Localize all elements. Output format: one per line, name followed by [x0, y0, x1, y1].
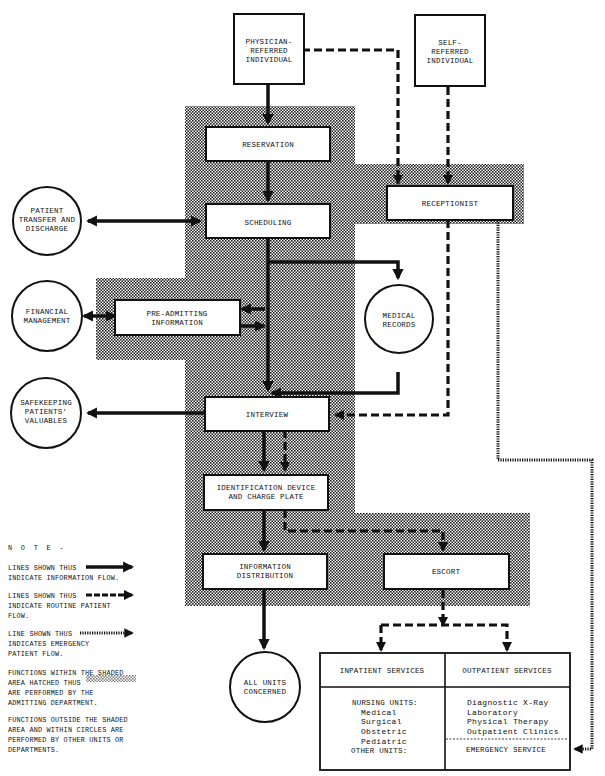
- node-physician-referred-individual: PHYSICIAN- REFERRED INDIVIDUAL: [234, 14, 304, 84]
- svg-text:Obstetric: Obstetric: [361, 727, 407, 736]
- svg-text:SELF-: SELF-: [438, 39, 462, 47]
- svg-text:PATIENT: PATIENT: [31, 207, 64, 215]
- svg-text:INDIVIDUAL: INDIVIDUAL: [245, 56, 292, 64]
- node-information-distribution: INFORMATION DISTRIBUTION: [203, 554, 327, 589]
- node-reservation: RESERVATION: [206, 127, 330, 161]
- svg-text:TRANSFER AND: TRANSFER AND: [19, 216, 76, 224]
- svg-text:DISTRIBUTION: DISTRIBUTION: [237, 572, 293, 580]
- note-information-flow: LINES SHOWN THUS INDICATE INFORMATION FL…: [8, 563, 119, 583]
- svg-text:REFERRED: REFERRED: [431, 48, 469, 56]
- svg-text:Surgical: Surgical: [361, 717, 402, 726]
- svg-text:PHYSICIAN-: PHYSICIAN-: [245, 38, 292, 46]
- svg-text:RESERVATION: RESERVATION: [242, 141, 294, 149]
- legend-samples: [80, 567, 136, 682]
- note-shaded-area: FUNCTIONS WITHIN THE SHADED AREA HATCHED…: [8, 668, 124, 708]
- circle-all-units-concerned: ALL UNITS CONCERNED: [230, 652, 300, 722]
- node-escort: ESCORT: [384, 554, 509, 589]
- svg-text:ESCORT: ESCORT: [432, 568, 461, 576]
- emergency-service-label: EMERGENCY SERVICE: [466, 746, 546, 754]
- svg-text:AND CHARGE PLATE: AND CHARGE PLATE: [228, 493, 304, 501]
- circle-medical-records: MEDICAL RECORDS: [365, 285, 433, 353]
- node-identification-device: IDENTIFICATION DEVICE AND CHARGE PLATE: [204, 475, 328, 510]
- circle-safekeeping-valuables: SAFEKEEPING PATIENTS' VALUABLES: [11, 378, 81, 448]
- services-table: INPATIENT SERVICES OUTPATIENT SERVICES N…: [320, 653, 570, 770]
- svg-text:MEDICAL: MEDICAL: [383, 312, 416, 320]
- circle-patient-transfer-discharge: PATIENT TRANSFER AND DISCHARGE: [13, 187, 81, 255]
- svg-text:Outpatient Clinics: Outpatient Clinics: [467, 727, 559, 736]
- note-emergency-patient-flow: LINE SHOWN THUS INDICATES EMERGENCY PATI…: [8, 629, 89, 659]
- svg-text:CONCERNED: CONCERNED: [244, 688, 287, 696]
- svg-text:VALUABLES: VALUABLES: [25, 417, 68, 425]
- svg-text:SCHEDULING: SCHEDULING: [244, 219, 291, 227]
- node-scheduling: SCHEDULING: [206, 204, 330, 238]
- svg-text:IDENTIFICATION DEVICE: IDENTIFICATION DEVICE: [217, 484, 316, 492]
- svg-text:Pediatric: Pediatric: [361, 737, 407, 746]
- svg-text:INTERVIEW: INTERVIEW: [246, 411, 289, 419]
- node-pre-admitting-information: PRE-ADMITTING INFORMATION: [115, 300, 240, 335]
- outpatient-header: OUTPATIENT SERVICES: [462, 667, 552, 675]
- node-interview: INTERVIEW: [205, 397, 329, 431]
- svg-text:PATIENTS': PATIENTS': [25, 408, 67, 416]
- svg-text:NURSING UNITS:: NURSING UNITS:: [352, 699, 418, 707]
- svg-text:DISCHARGE: DISCHARGE: [26, 225, 69, 233]
- note-routine-patient-flow: LINES SHOWN THUS INDICATE ROUTINE PATIEN…: [8, 591, 111, 621]
- svg-text:REFERRED: REFERRED: [250, 47, 288, 55]
- svg-text:Laboratory: Laboratory: [467, 708, 518, 717]
- svg-text:Diagnostic X-Ray: Diagnostic X-Ray: [467, 698, 549, 707]
- svg-text:FINANCIAL: FINANCIAL: [26, 308, 69, 316]
- admitting-flow-diagram: PHYSICIAN- REFERRED INDIVIDUAL SELF- REF…: [0, 0, 605, 776]
- node-receptionist: RECEPTIONIST: [387, 186, 513, 220]
- svg-text:Medical: Medical: [361, 708, 397, 717]
- inpatient-header: INPATIENT SERVICES: [340, 667, 425, 675]
- svg-text:ALL UNITS: ALL UNITS: [244, 679, 287, 687]
- note-outside-area: FUNCTIONS OUTSIDE THE SHADED AREA AND WI…: [8, 715, 128, 755]
- svg-text:PRE-ADMITTING: PRE-ADMITTING: [146, 310, 207, 318]
- svg-text:RECEPTIONIST: RECEPTIONIST: [422, 200, 479, 208]
- note-heading: N O T E -: [8, 543, 64, 553]
- circle-financial-management: FINANCIAL MANAGEMENT: [12, 281, 82, 351]
- svg-text:MANAGEMENT: MANAGEMENT: [23, 317, 70, 325]
- svg-text:OTHER UNITS:: OTHER UNITS:: [351, 747, 407, 755]
- svg-text:Physical Therapy: Physical Therapy: [467, 717, 549, 726]
- svg-text:SAFEKEEPING: SAFEKEEPING: [20, 399, 72, 407]
- node-self-referred-individual: SELF- REFERRED INDIVIDUAL: [415, 15, 485, 86]
- svg-text:INFORMATION: INFORMATION: [239, 563, 291, 571]
- svg-text:RECORDS: RECORDS: [383, 321, 416, 329]
- svg-text:INDIVIDUAL: INDIVIDUAL: [426, 57, 473, 65]
- svg-text:INFORMATION: INFORMATION: [151, 319, 203, 327]
